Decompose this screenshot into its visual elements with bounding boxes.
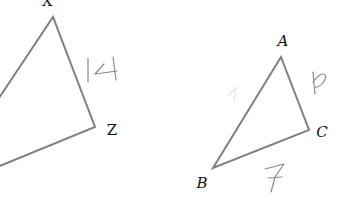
- handwritten-digit-4: [95, 57, 117, 80]
- triangles-diagram: X Z A B C: [0, 0, 342, 211]
- triangle-left-edges: [0, 17, 95, 168]
- vertex-label-b: B: [195, 174, 207, 192]
- side-annotation-ac: [313, 72, 326, 94]
- triangle-right-edges: [213, 57, 309, 168]
- faint-mark: [229, 88, 236, 101]
- side-annotation-xz: [88, 57, 117, 82]
- triangle-right: A B C: [195, 32, 328, 192]
- side-annotation-bc: [265, 164, 284, 192]
- triangle-left: X Z: [0, 0, 117, 168]
- vertex-label-c: C: [316, 123, 328, 141]
- vertex-label-a: A: [276, 32, 289, 50]
- vertex-label-z: Z: [107, 121, 117, 139]
- vertex-label-x: X: [42, 0, 53, 10]
